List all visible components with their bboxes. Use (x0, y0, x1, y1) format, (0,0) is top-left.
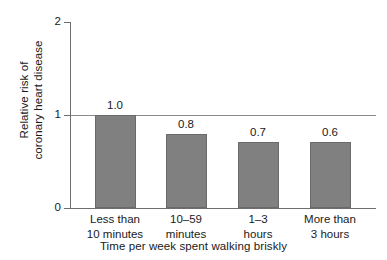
bar-value-label-1: 1.0 (85, 100, 145, 112)
y-tick-label-1: 1 (21, 109, 61, 121)
bar-value-label-2: 0.8 (156, 119, 216, 131)
x-category-label-4-line-2: 3 hours (282, 227, 378, 242)
y-tick-label-0: 0 (21, 202, 61, 214)
y-tick-mark-2 (64, 22, 71, 23)
y-axis-title-line-2: coronary heart disease (31, 40, 45, 159)
bar-value-label-3: 0.7 (228, 127, 288, 139)
bar-less-than-10-minutes (95, 115, 136, 208)
x-axis-title: Time per week spent walking briskly (0, 241, 387, 253)
y-axis-title: Relative risk of coronary heart disease (8, 0, 54, 200)
x-category-label-4-line-1: More than (282, 212, 378, 227)
x-category-label-4: More than 3 hours (282, 212, 378, 241)
bar-10-59-minutes (166, 134, 207, 208)
bar-chart: Relative risk of coronary heart disease … (0, 0, 387, 260)
bar-more-than-3-hours (310, 142, 351, 208)
y-axis-title-line-1: Relative risk of (17, 62, 31, 139)
bar-1-3-hours (238, 142, 279, 208)
x-axis-line (70, 208, 376, 209)
y-tick-label-2: 2 (21, 16, 61, 28)
y-tick-mark-0 (64, 208, 71, 209)
bar-value-label-4: 0.6 (300, 127, 360, 139)
y-tick-mark-1 (64, 115, 71, 116)
